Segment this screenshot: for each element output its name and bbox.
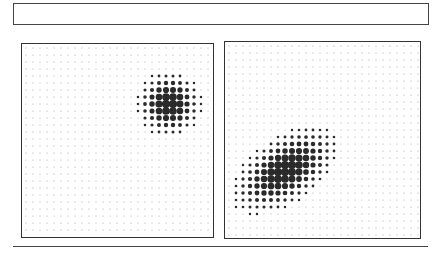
dot-grid-panel-left: [21, 43, 214, 238]
dot-field: [225, 42, 420, 238]
dot-grid-panel-right: [224, 41, 421, 239]
bottom-divider: [13, 246, 428, 247]
header-box: [13, 3, 429, 25]
dot-field: [22, 44, 213, 237]
